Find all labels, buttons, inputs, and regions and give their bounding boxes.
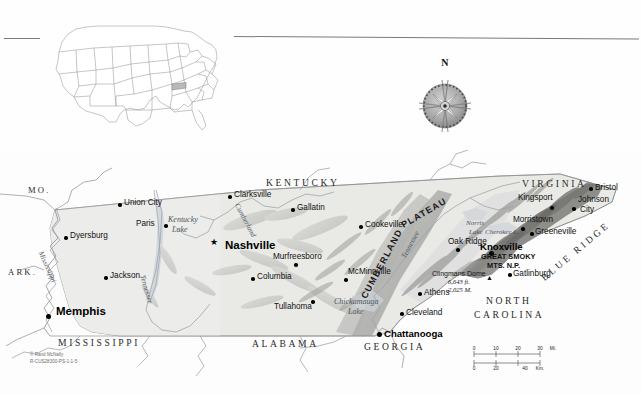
peak-marker-icon: ▲ <box>486 274 493 281</box>
park-label-great-smoky-line2: MTS. N.P. <box>487 262 520 269</box>
city-dot-paris <box>164 224 168 228</box>
city-dot-murfreesboro <box>294 263 298 267</box>
city-dot-union-city <box>118 203 122 207</box>
us-locator-inset-map <box>46 14 236 139</box>
state-label-virginia: VIRGINIA <box>522 179 587 189</box>
city-dot-gallatin <box>291 208 295 212</box>
city-dot-morristown <box>521 227 525 231</box>
water-label-kentucky-lake-line2: Lake <box>172 226 188 234</box>
state-label-missouri: MO. <box>28 186 51 195</box>
water-label-chickamauga-lake-line1: Chickamauga <box>334 298 378 306</box>
city-label-tullahoma[interactable]: Tullahoma <box>274 303 312 311</box>
city-label-memphis[interactable]: Memphis <box>56 306 106 318</box>
water-label-norris-lake-line1: Norris <box>466 220 484 227</box>
city-dot-greeneville <box>530 232 534 236</box>
scale-mi-unit: Mi. <box>550 346 556 351</box>
copyright-line-1: © Rand McNally <box>30 352 63 359</box>
state-label-mississippi: MISSISSIPPI <box>58 338 140 348</box>
city-label-columbia[interactable]: Columbia <box>257 273 292 281</box>
scale-km-tick-0: 0 <box>473 366 476 371</box>
water-label-cherokee-lake: Cherokee L. <box>485 229 519 236</box>
city-label-clarksville[interactable]: Clarksville <box>234 191 271 199</box>
state-label-kentucky: KENTUCKY <box>266 178 340 188</box>
city-label-chattanooga[interactable]: Chattanooga <box>384 329 443 339</box>
city-label-johnson[interactable]: Johnson <box>578 196 609 204</box>
city-dot-dyersburg <box>64 236 68 240</box>
city-label-bristol[interactable]: Bristol <box>595 184 618 192</box>
capital-star-nashville: ★ <box>210 238 218 247</box>
feature-label-cumberland-plateau-part1: CUMBERLAND <box>360 228 404 301</box>
river-label-tennessee-west: Tennessee <box>139 274 154 305</box>
city-label-athens[interactable]: Athens <box>424 289 450 297</box>
city-label-union-city[interactable]: Union City <box>124 199 162 207</box>
scale-km-tick-2: 40 <box>522 366 528 371</box>
scale-km-tick-1: 20 <box>493 366 499 371</box>
peak-elevation-feet: 6,643 ft. <box>448 279 470 286</box>
peak-elevation-meters: 2,025 M. <box>448 287 472 294</box>
state-label-alabama: ALABAMA <box>252 339 319 349</box>
city-label-gallatin[interactable]: Gallatin <box>297 204 325 212</box>
state-label-north: NORTH <box>486 296 531 306</box>
map-canvas: N <box>0 0 641 395</box>
compass-north-label: N <box>405 57 485 68</box>
city-dot-chattanooga <box>377 332 382 337</box>
feature-label-cumberland-plateau-part2: PLATEAU <box>400 197 449 230</box>
peak-label-clingmans-dome: Clingmans Dome <box>432 270 486 277</box>
city-label-knoxville[interactable]: Knoxville <box>480 242 523 252</box>
header-rule-left <box>4 38 40 39</box>
scale-mi-tick-3: 30 <box>537 346 543 351</box>
city-dot-memphis <box>46 314 51 319</box>
city-dot-mcminnville <box>344 278 348 282</box>
state-label-carolina: CAROLINA <box>474 310 544 320</box>
city-label-murfreesboro[interactable]: Murfreesboro <box>273 253 322 261</box>
city-dot-jackson <box>104 276 108 280</box>
scale-km-unit: Km. <box>536 366 545 371</box>
city-dot-bristol <box>589 187 593 191</box>
city-label-paris[interactable]: Paris <box>136 220 155 228</box>
scale-mi-tick-1: 10 <box>493 346 499 351</box>
river-label-tennessee-east: Tennessee <box>400 230 420 260</box>
city-label-dyersburg[interactable]: Dyersburg <box>70 232 108 240</box>
city-dot-johnson-city <box>572 207 576 211</box>
city-label-cleveland[interactable]: Cleveland <box>406 309 442 317</box>
city-dot-kingsport <box>550 206 554 210</box>
city-dot-athens <box>418 292 422 296</box>
city-dot-columbia <box>251 277 255 281</box>
city-dot-cookeville <box>359 225 363 229</box>
city-label-kingsport[interactable]: Kingsport <box>518 194 553 202</box>
compass-rose: N <box>405 58 485 138</box>
park-label-great-smoky-line1: GREAT SMOKY <box>481 253 535 260</box>
water-label-norris-lake-line2: Lake <box>469 229 483 236</box>
city-dot-clarksville <box>228 195 232 199</box>
water-label-kentucky-lake-line1: Kentucky <box>168 216 198 224</box>
scale-mi-tick-0: 0 <box>473 346 476 351</box>
scale-mi-tick-2: 20 <box>515 346 521 351</box>
city-label-morristown[interactable]: Morristown <box>513 216 553 224</box>
state-label-georgia: GEORGIA <box>364 342 425 352</box>
scale-bar: 0 10 20 30 Mi. 0 20 40 Km. <box>470 345 566 371</box>
city-label-johnson-city-second-line[interactable]: City <box>580 206 594 214</box>
city-label-greeneville[interactable]: Greeneville <box>535 228 576 236</box>
city-label-jackson[interactable]: Jackson <box>110 272 140 280</box>
state-label-arkansas: ARK. <box>8 268 37 277</box>
city-dot-gatlinburg <box>508 273 512 277</box>
water-label-chickamauga-lake-line2: Lake <box>348 308 364 316</box>
copyright-line-2: R-CUS28300-PS-1-1-5 <box>30 359 77 366</box>
river-label-mississippi: Mississippi <box>37 250 57 283</box>
river-label-cumberland: Cumberland <box>233 202 257 238</box>
header-rule-right <box>234 36 639 39</box>
city-dot-oak-ridge <box>456 248 460 252</box>
city-label-nashville[interactable]: Nashville <box>225 240 276 252</box>
city-dot-cleveland <box>400 312 404 316</box>
